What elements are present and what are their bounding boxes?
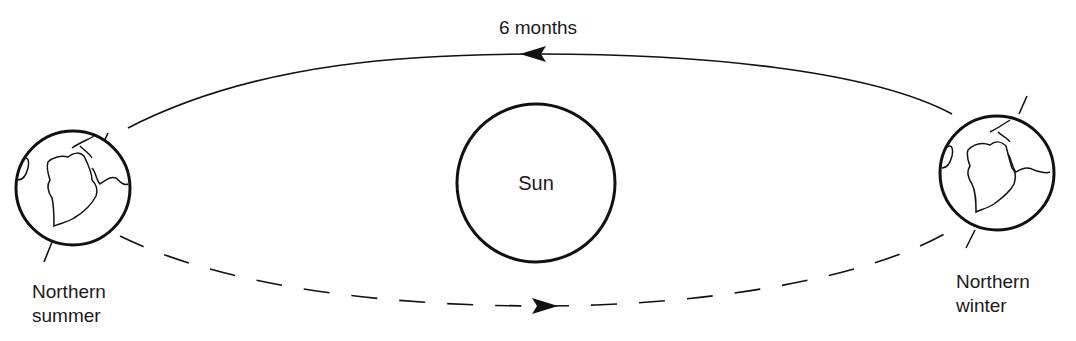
sun-label: Sun	[518, 172, 554, 194]
right-earth-label-line1: Northern	[956, 271, 1030, 292]
arrow-right-icon	[532, 298, 558, 314]
earth-northern-summer: Northern summer	[16, 131, 130, 326]
earth-globe-icon	[940, 116, 1054, 230]
earth-orbit-diagram: 6 months Sun Northern summer	[0, 0, 1076, 341]
left-earth-label-line2: summer	[32, 305, 101, 326]
left-earth-label-line1: Northern	[32, 281, 106, 302]
duration-label: 6 months	[499, 17, 577, 38]
right-earth-label-line2: winter	[955, 295, 1007, 316]
earth-northern-winter: Northern winter	[940, 96, 1054, 316]
sun: Sun	[457, 104, 615, 262]
